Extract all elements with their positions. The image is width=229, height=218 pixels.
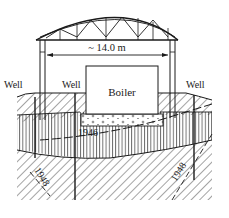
well-label-middle: Well	[62, 79, 81, 90]
contour-1946-label: 1946	[78, 127, 98, 138]
boiler: Boiler	[86, 66, 158, 114]
well-label-right: Well	[186, 79, 205, 90]
boiler-building-section-diagram: Boiler ~ 14.0 m Well Well Well	[0, 0, 229, 218]
span-dimension: ~ 14.0 m	[47, 42, 168, 57]
truss-roof	[36, 17, 178, 40]
span-label: ~ 14.0 m	[88, 42, 125, 53]
boiler-label: Boiler	[108, 86, 136, 98]
well-label-left: Well	[4, 79, 23, 90]
boiler-foundation	[81, 114, 163, 126]
